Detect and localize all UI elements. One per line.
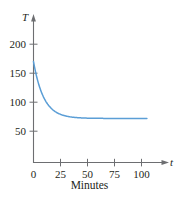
x-tick-label-25: 25 (51, 169, 71, 180)
x-axis-symbol-label: t (170, 157, 173, 168)
y-axis-arrowhead (31, 14, 36, 22)
x-axis-arrowhead (162, 160, 170, 165)
temperature-curve (34, 62, 147, 119)
y-tick-label-150: 150 (6, 68, 26, 79)
y-axis-symbol-label: T (22, 12, 28, 23)
y-tick-label-200: 200 (6, 39, 26, 50)
x-axis-caption: Minutes (0, 180, 179, 192)
cooling-curve-figure: 200 150 100 50 0 25 50 75 100 T t Minute… (0, 0, 179, 200)
y-tick-label-50: 50 (6, 126, 26, 137)
y-tick-label-100: 100 (6, 97, 26, 108)
x-tick-label-100: 100 (132, 169, 152, 180)
x-tick-label-0: 0 (24, 169, 44, 180)
